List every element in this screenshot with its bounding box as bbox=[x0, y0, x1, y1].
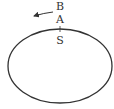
label-s: S bbox=[56, 34, 64, 47]
label-a: A bbox=[55, 13, 65, 26]
orbit-diagram: B A S bbox=[0, 0, 114, 109]
direction-arrow-icon bbox=[34, 12, 53, 16]
label-b: B bbox=[56, 0, 64, 13]
